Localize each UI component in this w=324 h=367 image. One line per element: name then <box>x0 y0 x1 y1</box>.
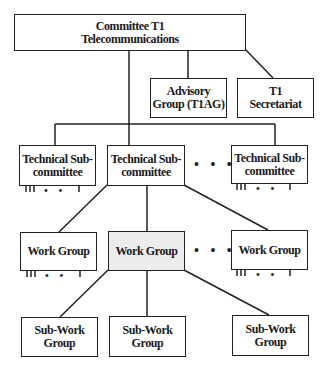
technical-subcommittee-label: Technical Sub- committee <box>234 152 304 178</box>
sub-work-group-box-1: Sub-Work Group <box>21 317 98 357</box>
committee-t1-box: Committee T1 Telecommunications <box>14 14 246 51</box>
technical-subcommittee-label: Technical Sub- committee <box>111 153 181 179</box>
sub-work-group-box-2: Sub-Work Group <box>109 316 186 357</box>
technical-subcommittee-label: Technical Sub- committee <box>22 153 92 179</box>
work-group-box-1: Work Group <box>20 232 97 271</box>
committee-t1-label: Committee T1 Telecommunications <box>81 20 179 46</box>
technical-subcommittee-box-2: Technical Sub- committee <box>107 145 185 186</box>
ellipsis-work-groups: • • • <box>194 243 236 259</box>
work-group-label: Work Group <box>27 245 89 258</box>
secretariat-box: T1 Secretariat <box>237 78 314 118</box>
ellipsis-subcommittees: • • • <box>194 157 236 173</box>
work-group-box-3: Work Group <box>231 230 308 270</box>
work-group-box-2-highlighted: Work Group <box>108 231 185 271</box>
sub-work-group-label: Sub-Work Group <box>122 324 172 350</box>
work-group-label: Work Group <box>238 244 300 257</box>
sub-work-group-label: Sub-Work Group <box>245 323 295 349</box>
sub-work-group-label: Sub-Work Group <box>34 324 84 350</box>
advisory-group-label: Advisory Group (T1AG) <box>153 85 225 111</box>
advisory-group-box: Advisory Group (T1AG) <box>150 78 227 118</box>
technical-subcommittee-box-3: Technical Sub- committee <box>231 145 308 184</box>
ellipsis-wg3-children: • • <box>256 268 278 280</box>
secretariat-label: T1 Secretariat <box>249 85 301 111</box>
ellipsis-wg1-children: • • <box>45 269 67 281</box>
ellipsis-ts1-children: • • <box>44 184 66 196</box>
work-group-label: Work Group <box>115 245 177 258</box>
sub-work-group-box-3: Sub-Work Group <box>232 315 309 356</box>
technical-subcommittee-box-1: Technical Sub- committee <box>19 145 96 186</box>
ellipsis-ts3-children: • • <box>256 182 278 194</box>
